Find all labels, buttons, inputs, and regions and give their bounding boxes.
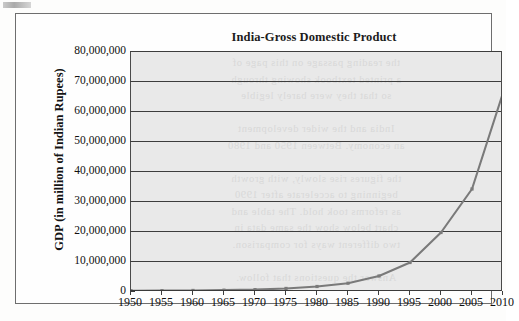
data-point-marker xyxy=(315,285,318,288)
plot-area: the reading passage on this page ofa pri… xyxy=(130,51,502,291)
y-tick-label: 40,000,000 xyxy=(34,164,126,176)
x-tickmark xyxy=(409,291,410,295)
y-tickmark xyxy=(130,141,135,142)
figure-frame: India-Gross Domestic Product GDP (in mil… xyxy=(15,13,492,304)
gdp-line-path xyxy=(131,93,502,291)
x-tickmark xyxy=(502,291,503,295)
x-tickmark xyxy=(316,291,317,295)
y-tick-label: 20,000,000 xyxy=(34,224,126,236)
y-tickmark xyxy=(130,81,135,82)
y-tickmark xyxy=(130,231,135,232)
y-tickmark xyxy=(130,111,135,112)
x-tickmark xyxy=(347,291,348,295)
y-tick-label: 30,000,000 xyxy=(34,194,126,206)
y-tick-label: 80,000,000 xyxy=(34,44,126,56)
y-axis-tick-labels: 010,000,00020,000,00030,000,00040,000,00… xyxy=(30,51,126,291)
x-tickmark xyxy=(378,291,379,295)
x-tickmark xyxy=(285,291,286,295)
x-axis-tick-labels: 1950195519601965197019751980198519901995… xyxy=(130,295,502,313)
y-tick-label: 50,000,000 xyxy=(34,134,126,146)
x-tickmark xyxy=(223,291,224,295)
scan-artifact xyxy=(3,2,31,8)
data-point-marker xyxy=(377,274,380,277)
y-tick-label: 70,000,000 xyxy=(34,74,126,86)
y-tick-label: 60,000,000 xyxy=(34,104,126,116)
x-tickmark xyxy=(440,291,441,295)
data-point-marker xyxy=(439,231,442,234)
y-tickmark xyxy=(130,171,135,172)
x-tickmark xyxy=(130,291,131,295)
x-tickmark xyxy=(471,291,472,295)
chart-title: India-Gross Domestic Product xyxy=(124,30,504,45)
x-tickmark xyxy=(192,291,193,295)
data-point-marker xyxy=(408,261,411,264)
y-tickmark xyxy=(130,201,135,202)
data-point-marker xyxy=(470,187,473,190)
data-point-marker xyxy=(346,282,349,285)
data-point-marker xyxy=(501,91,502,94)
x-tickmark xyxy=(161,291,162,295)
x-tick-label: 2010 xyxy=(480,295,519,310)
y-tickmark xyxy=(130,261,135,262)
y-tickmark xyxy=(130,51,135,52)
gdp-line-series xyxy=(131,51,502,291)
y-tick-label: 10,000,000 xyxy=(34,254,126,266)
data-point-marker xyxy=(284,287,287,290)
x-tickmark xyxy=(254,291,255,295)
